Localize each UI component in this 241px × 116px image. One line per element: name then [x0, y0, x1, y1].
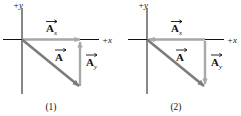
vector-ay-label-group-1: A y	[86, 53, 98, 70]
ay-label-base-2: A	[211, 56, 219, 68]
vector-a-label-group-1: A	[55, 48, 66, 63]
vector-ax-label-group-2: A x	[171, 20, 183, 37]
ax-label-base-2: A	[171, 22, 179, 34]
panel-caption-1: (1)	[45, 102, 56, 113]
diagram-panel-1: +y +x A x A A y	[0, 0, 120, 116]
a-label-base-2: A	[176, 51, 184, 63]
diagram-panel-2: +y +x A x A A y	[120, 0, 240, 116]
y-axis-label-1: +y	[13, 0, 23, 10]
ax-label-sub-1: x	[53, 29, 58, 37]
x-axis-label-1: +x	[102, 35, 112, 45]
a-label-base-1: A	[55, 51, 63, 63]
vector-a-label-group-2: A	[176, 48, 187, 63]
panel-2-canvas: +y +x A x A A y	[120, 0, 241, 116]
vector-ax-label-group-1: A x	[46, 20, 58, 37]
vector-diagram-figure: +y +x A x A A y	[0, 0, 241, 116]
y-axis-label-2: +y	[138, 0, 148, 10]
ax-label-sub-2: x	[178, 29, 183, 37]
ay-label-sub-1: y	[93, 63, 98, 71]
panel-1-canvas: +y +x A x A A y	[0, 0, 120, 116]
vector-a-1	[22, 40, 79, 87]
panel-caption-2: (2)	[170, 102, 181, 113]
ax-label-base-1: A	[46, 22, 54, 34]
vector-ay-label-group-2: A y	[211, 53, 223, 70]
ay-label-sub-2: y	[218, 63, 223, 71]
ay-label-base-1: A	[86, 56, 94, 68]
x-axis-label-2: +x	[227, 35, 237, 45]
